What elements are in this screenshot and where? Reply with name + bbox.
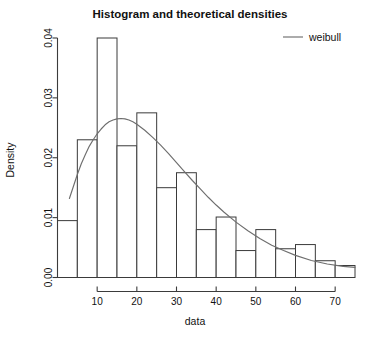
x-axis-tick-label: 70 — [330, 296, 342, 307]
y-axis-tick-label: 0.00 — [43, 267, 54, 287]
plot-root: Histogram and theoretical densities 0.00… — [0, 0, 367, 340]
y-axis-tick-label: 0.01 — [43, 207, 54, 227]
y-axis-label: Density — [4, 142, 16, 178]
histogram-bar — [157, 188, 177, 278]
histogram-bar — [177, 173, 197, 278]
y-axis-tick-label: 0.04 — [43, 28, 54, 48]
x-axis-tick-label: 40 — [211, 296, 223, 307]
x-axis-tick-label: 60 — [290, 296, 302, 307]
histogram-bar — [276, 249, 296, 278]
histogram-bar — [97, 38, 117, 278]
histogram-bar — [216, 217, 236, 277]
histogram-chart: Histogram and theoretical densities 0.00… — [0, 0, 367, 340]
legend-label-weibull: weibull — [308, 31, 341, 43]
histogram-bar — [58, 221, 78, 278]
x-axis-tick-label: 20 — [131, 296, 143, 307]
y-axis-tick-label: 0.03 — [43, 88, 54, 108]
histogram-bar — [137, 113, 157, 278]
histogram-bar — [77, 140, 97, 278]
chart-title: Histogram and theoretical densities — [93, 8, 288, 20]
histogram-bar — [117, 146, 137, 278]
x-axis-tick-label: 10 — [92, 296, 104, 307]
x-axis-label: data — [185, 315, 206, 327]
histogram-bar — [256, 230, 276, 278]
y-axis-tick-label: 0.02 — [43, 148, 54, 168]
x-axis-tick-label: 50 — [250, 296, 262, 307]
histogram-bar — [236, 251, 256, 278]
x-axis-tick-label: 30 — [171, 296, 183, 307]
histogram-bar — [196, 230, 216, 278]
